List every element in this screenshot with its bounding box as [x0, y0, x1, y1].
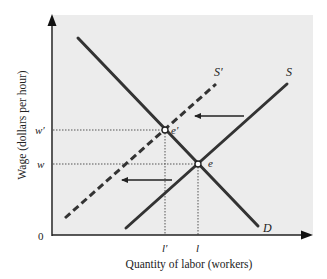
- tick-w-prime: w′: [35, 124, 45, 136]
- tick-w: w: [37, 158, 45, 170]
- label-S: S: [286, 65, 292, 79]
- label-e: e: [208, 157, 213, 169]
- labor-market-chart: S′ S D e′ e w′ w l′ l 0 Quantity of labo…: [0, 0, 327, 279]
- label-S-prime: S′: [214, 65, 223, 79]
- plot-area: [53, 15, 313, 235]
- origin-label: 0: [38, 230, 44, 242]
- x-axis-title: Quantity of labor (workers): [126, 258, 253, 271]
- y-axis-title: Wage (dollars per hour): [16, 70, 29, 179]
- tick-l-prime: l′: [162, 242, 168, 254]
- equilibrium-point-e-prime: [162, 127, 168, 133]
- equilibrium-point-e: [195, 161, 201, 167]
- tick-l: l: [196, 242, 199, 254]
- label-e-prime: e′: [171, 124, 179, 136]
- label-D: D: [262, 221, 272, 235]
